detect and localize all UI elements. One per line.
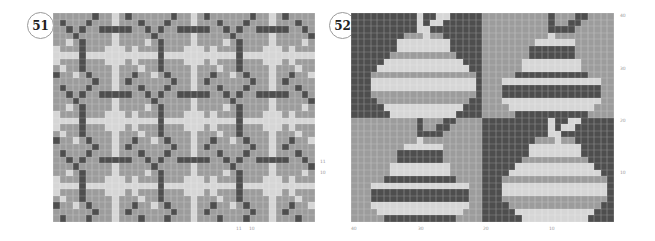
chart-cell <box>594 215 601 222</box>
chart-cell <box>555 215 562 222</box>
chart-cell <box>463 215 470 222</box>
chart-cell <box>417 215 424 222</box>
chart-cell <box>548 215 555 222</box>
chart-cell <box>581 215 588 222</box>
chart-cell <box>502 215 509 222</box>
bottom-label-10: 10 <box>549 227 555 232</box>
chart-cell <box>607 215 614 222</box>
chart-number-51: 51 <box>32 19 49 33</box>
chart-cell <box>364 215 371 222</box>
side-label-30: 30 <box>620 67 626 72</box>
bottom-label-10: 10 <box>249 227 255 232</box>
chart-cell <box>430 215 437 222</box>
bottom-label-11: 11 <box>236 227 242 232</box>
chart-cell <box>535 215 542 222</box>
chart-cell <box>568 215 575 222</box>
side-label-10: 10 <box>620 171 626 176</box>
knitting-chart-51-octagon-pattern <box>53 13 315 222</box>
chart-cell <box>450 215 457 222</box>
chart-cell <box>588 215 595 222</box>
chart-cell <box>456 215 463 222</box>
chart-number-52: 52 <box>334 19 351 33</box>
chart-cell <box>522 215 529 222</box>
side-label-40: 40 <box>620 14 626 19</box>
chart-cell <box>482 215 489 222</box>
bottom-label-30: 30 <box>418 227 424 232</box>
chart-cell <box>390 215 397 222</box>
chart-cell <box>423 215 430 222</box>
chart-cell <box>496 215 503 222</box>
side-label-10: 10 <box>320 171 326 176</box>
chart-cell <box>469 215 476 222</box>
chart-cell <box>601 215 608 222</box>
knitting-chart-52-pears <box>351 13 614 222</box>
bottom-label-20: 20 <box>483 227 489 232</box>
chart-cell <box>397 215 404 222</box>
chart-cell <box>561 215 568 222</box>
side-label-11: 11 <box>320 160 326 165</box>
chart-cell <box>308 215 315 222</box>
chart-cell <box>529 215 536 222</box>
chart-cell <box>489 215 496 222</box>
chart-cell <box>358 215 365 222</box>
chart-cell <box>436 215 443 222</box>
chart-cell <box>515 215 522 222</box>
bottom-label-40: 40 <box>351 227 357 232</box>
chart-cell <box>404 215 411 222</box>
side-label-20: 20 <box>620 119 626 124</box>
chart-number-badge-51: 51 <box>27 12 54 39</box>
chart-cell <box>384 215 391 222</box>
chart-cell <box>371 215 378 222</box>
